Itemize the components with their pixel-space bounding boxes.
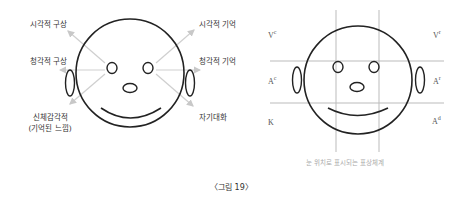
right-face [270, 10, 444, 152]
mouth [101, 108, 161, 118]
left-ear [66, 70, 75, 96]
left-ear [293, 67, 302, 93]
left-eye [333, 62, 343, 73]
diagram-canvas [0, 0, 467, 197]
label-kinesthetic-line1: 신체감각적 [22, 111, 78, 122]
right-eye [369, 62, 379, 73]
label-ar-sup: r [439, 75, 441, 81]
label-auditory-remembered: 청각적 기억 [199, 55, 236, 66]
label-vc: Vc [268, 29, 276, 40]
label-visual-construct: 시각적 구상 [30, 18, 67, 29]
label-ad: Ad [432, 115, 441, 126]
label-kinesthetic: 신체감각적 (기억된 느낌) [22, 111, 78, 133]
label-vc-sup: c [274, 29, 277, 35]
arrow-internal-dialogue [156, 74, 193, 106]
right-ear [416, 67, 425, 93]
right-eye [143, 63, 153, 74]
left-face [60, 19, 200, 127]
grid-lines [270, 10, 444, 152]
label-auditory-construct: 청각적 구상 [30, 55, 67, 66]
arrow-kinesthetic [70, 74, 105, 104]
figure-caption: 〈그림 19〉 [210, 181, 253, 192]
label-ac: Ac [268, 75, 276, 86]
left-eye [107, 63, 117, 74]
nose [350, 83, 364, 92]
label-vr-sup: r [439, 29, 441, 35]
label-ac-sup: c [274, 75, 277, 81]
label-k-base: K [268, 118, 274, 127]
head-outline [76, 19, 184, 127]
right-diagram-subtitle: 눈 위치로 표시되는 표상체계 [306, 157, 384, 167]
label-kinesthetic-line2: (기억된 느낌) [22, 122, 78, 133]
arrow-visual-construct [68, 31, 105, 63]
arrow-visual-remembered [156, 30, 194, 63]
right-ear [186, 70, 195, 96]
nose [123, 84, 137, 93]
label-ar: Ar [433, 75, 441, 86]
label-vr: Vr [433, 29, 441, 40]
label-ad-sup: d [438, 115, 441, 121]
label-k: K [268, 118, 274, 127]
label-visual-remembered: 시각적 기억 [199, 18, 236, 29]
head-outline [304, 26, 412, 134]
label-internal-dialogue: 자기대화 [199, 111, 227, 122]
